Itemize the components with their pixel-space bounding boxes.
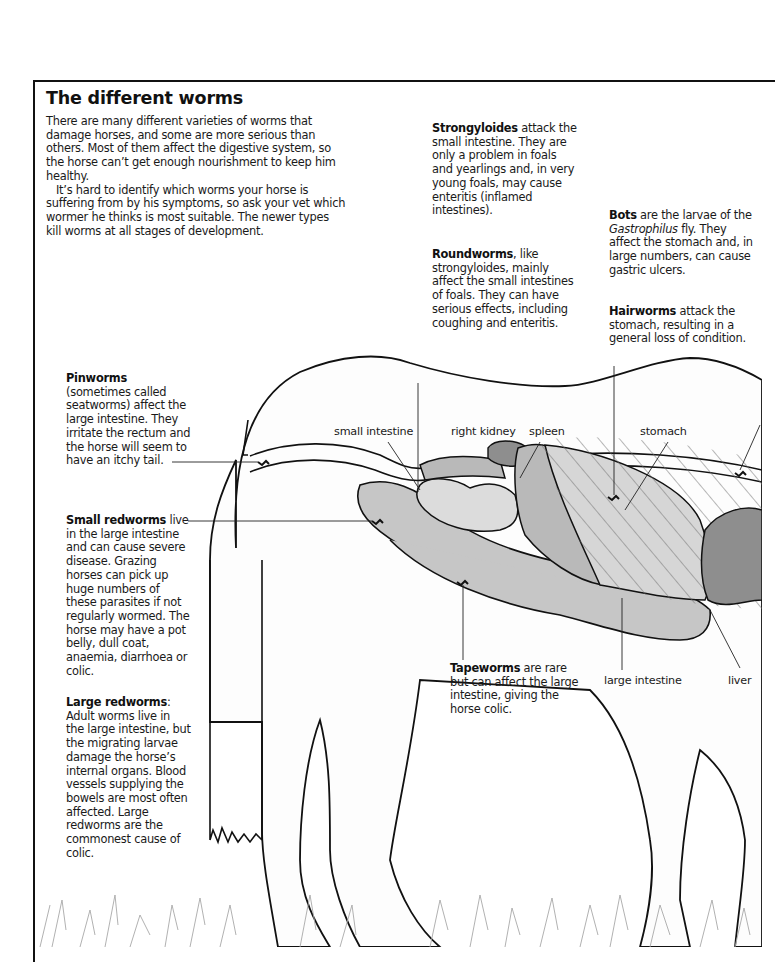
tapeworms-note: Tapeworms are rare but can affect the la…: [450, 662, 580, 717]
small-redworms-note: Small redworms live in the large intesti…: [66, 514, 191, 678]
label-large-intestine: large intestine: [604, 674, 682, 687]
label-right-kidney: right kidney: [451, 425, 516, 438]
intro-text: There are many different varieties of wo…: [46, 115, 346, 238]
strongyloides-note: Strongyloides attack the small intestine…: [432, 122, 577, 218]
intro-paragraph-2: It’s hard to identify which worms your h…: [46, 184, 346, 239]
intro-paragraph-1: There are many different varieties of wo…: [46, 115, 346, 184]
page-title: The different worms: [46, 88, 243, 108]
roundworms-note: Roundworms, like strongyloides, mainly a…: [432, 248, 582, 330]
label-liver: liver: [728, 674, 751, 687]
label-spleen: spleen: [529, 425, 565, 438]
pinworms-note: Pinworms (sometimes called seatworms) af…: [66, 372, 191, 468]
label-small-intestine: small intestine: [334, 425, 413, 438]
bots-note: Bots are the larvae of the Gastrophilus …: [609, 209, 754, 278]
large-redworms-note: Large redworms: Adult worms live in the …: [66, 696, 191, 860]
label-stomach: stomach: [640, 425, 687, 438]
liver-organ: [702, 508, 762, 604]
hairworms-note: Hairworms attack the stomach, resulting …: [609, 305, 754, 346]
